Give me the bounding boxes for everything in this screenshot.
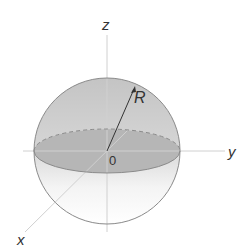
radius-label: R (134, 90, 146, 106)
y-axis-label: y (228, 144, 236, 159)
x-axis-label: x (17, 232, 25, 247)
z-axis-label: z (102, 17, 110, 32)
origin-label: 0 (109, 154, 116, 167)
sphere-diagram (0, 0, 250, 249)
